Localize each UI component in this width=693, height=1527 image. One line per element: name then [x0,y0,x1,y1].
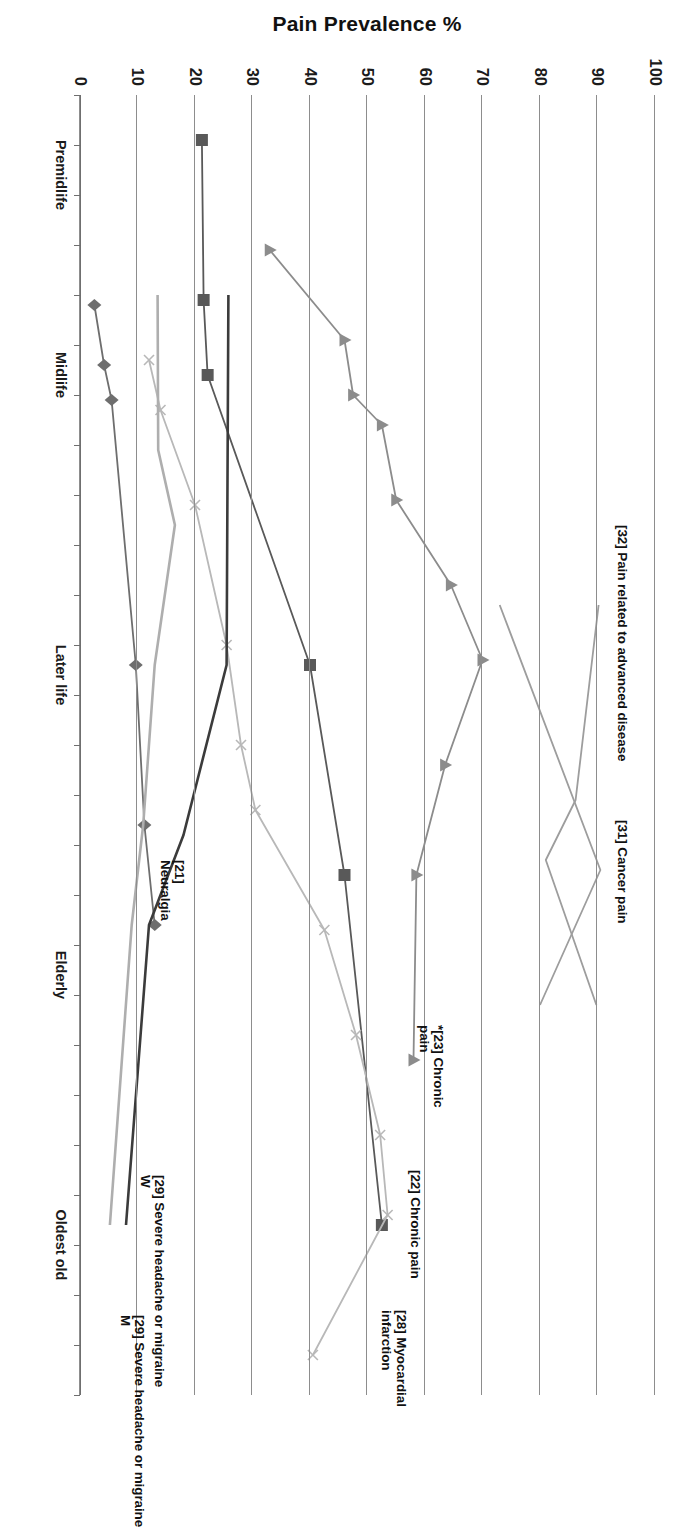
plot-area: 1009080706050403020100PremidlifeMidlifeL… [80,95,655,1395]
series-annotation-29m: [29] Severe headache or migraine M [117,1315,146,1527]
x-axis-tick [74,695,80,696]
series-annotation-21: [21] Neuralgia [157,860,186,921]
data-point-marker [198,294,210,306]
y-tick-label: 40 [301,68,320,86]
y-tick-label: 100 [646,58,665,86]
series-line [546,605,599,1005]
x-category-label: Elderly [53,951,69,999]
y-tick-label: 60 [416,68,435,86]
x-axis-tick [74,1045,80,1046]
x-category-label: Later life [53,645,69,705]
gridline [539,95,540,1395]
data-point-marker [97,359,111,371]
series-annotation-23: *[23] Chronic pain [416,1025,445,1108]
x-axis-tick [74,1245,80,1246]
x-axis-tick [74,1145,80,1146]
data-point-marker [339,869,351,881]
x-axis-tick [74,245,80,246]
x-axis-tick [74,995,80,996]
y-tick-label: 50 [358,68,377,86]
data-point-marker [304,659,316,671]
x-axis-tick [74,1295,80,1296]
y-tick-label: 0 [71,77,90,86]
x-axis-tick [74,95,80,96]
x-axis-tick [74,445,80,446]
gridline [597,95,598,1395]
series-annotation-32: [32] Pain related to advanced disease [615,525,630,761]
gridline [367,95,368,1395]
x-axis-tick [74,545,80,546]
y-tick-label: 90 [588,68,607,86]
data-point-marker [265,244,277,257]
x-axis-tick [74,1195,80,1196]
y-tick-label: 20 [186,68,205,86]
x-axis-tick [74,745,80,746]
x-axis-tick [74,345,80,346]
x-axis-tick [74,1345,80,1346]
series-annotation-22: [22] Chronic pain [408,1170,423,1279]
x-axis-tick [74,1095,80,1096]
series-line [94,305,154,925]
data-point-marker [478,654,490,667]
gridline [482,95,483,1395]
x-axis-tick [74,395,80,396]
gridline [424,95,425,1395]
series-annotation-31: [31] Cancer pain [615,820,630,923]
y-tick-label: 80 [531,68,550,86]
x-category-label: Oldest old [53,1210,69,1281]
y-axis-title-text: Pain Prevalence % [273,11,462,35]
x-axis-tick [74,795,80,796]
series-line [110,295,175,1225]
gridline [309,95,310,1395]
data-point-marker [196,134,208,146]
x-axis-tick [74,895,80,896]
x-axis-tick [74,645,80,646]
gridline [252,95,253,1395]
x-axis-tick [74,195,80,196]
x-category-label: Midlife [53,352,69,398]
y-tick-label: 30 [243,68,262,86]
data-point-marker [87,299,101,311]
x-axis-line [80,95,81,1395]
y-tick-label: 10 [128,68,147,86]
x-category-label: Premidlife [53,140,69,210]
x-axis-tick [74,1395,80,1396]
x-axis-tick [74,945,80,946]
series-line [500,605,601,1005]
x-axis-tick [74,845,80,846]
data-point-marker [319,925,329,935]
x-axis-tick [74,495,80,496]
series-line [149,360,388,1355]
gridline [194,95,195,1395]
x-axis-tick [74,595,80,596]
series-annotation-28: [28] Myocardial infarction [379,1310,408,1407]
data-point-marker [202,369,214,381]
series-line [270,250,483,1060]
x-axis-tick [74,295,80,296]
data-point-marker [105,394,119,406]
y-axis-title: Pain Prevalence % [80,10,655,36]
x-axis-tick [74,145,80,146]
gridline [654,95,655,1395]
y-tick-label: 70 [473,68,492,86]
data-point-marker [391,494,403,507]
